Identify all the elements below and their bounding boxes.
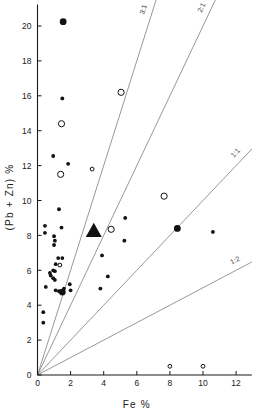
data-point-filled-circle — [41, 321, 45, 325]
y-axis-title: (Pb + Zn) % — [4, 164, 15, 231]
data-point-open-circle — [161, 193, 167, 199]
data-point-filled-circle — [56, 256, 60, 260]
reference-line-label-2-1: 2:1 — [196, 2, 207, 14]
data-point-filled-circle — [122, 239, 126, 243]
data-point-filled-circle — [43, 224, 47, 228]
x-tick-label: 10 — [198, 378, 208, 388]
reference-line-label-1-1: 1:1 — [229, 147, 241, 159]
data-points-group — [41, 18, 214, 368]
data-point-filled-circle — [54, 288, 58, 292]
data-point-open-circle — [201, 364, 205, 368]
x-axis-title: Fe % — [123, 399, 151, 410]
x-tick-label: 0 — [35, 378, 40, 388]
reference-line-group — [38, 0, 252, 375]
data-point-open-circle — [58, 121, 64, 127]
data-point-filled-circle — [53, 239, 57, 243]
data-point-open-circle — [168, 364, 172, 368]
reference-line-label-3-1: 3:1 — [138, 4, 148, 15]
plot-canvas: 024681012 02468101214161820 3:12:11:11:2… — [0, 0, 267, 415]
y-tick-label: 20 — [22, 21, 32, 31]
data-point-triangle — [86, 223, 102, 237]
data-point-filled-circle — [54, 262, 58, 266]
data-point-filled-circle — [174, 225, 181, 232]
x-tick-label: 6 — [134, 378, 139, 388]
data-point-filled-circle — [98, 287, 102, 291]
y-tick-label: 10 — [22, 196, 32, 206]
data-point-filled-circle — [59, 289, 66, 296]
data-point-filled-circle — [69, 288, 73, 292]
y-tick-label: 2 — [27, 335, 32, 345]
data-point-filled-circle — [52, 234, 56, 238]
data-point-filled-circle — [123, 216, 127, 220]
reference-line-1-1 — [38, 149, 252, 375]
data-point-filled-circle — [52, 243, 56, 247]
axes-group — [38, 5, 252, 375]
reference-line-3-1 — [38, 0, 157, 375]
reference-line-labels: 3:12:11:11:2 — [138, 2, 241, 266]
x-tick-label: 8 — [168, 378, 173, 388]
x-tick-label: 2 — [68, 378, 73, 388]
y-tick-label: 18 — [22, 56, 32, 66]
data-point-filled-circle — [211, 230, 215, 234]
data-point-filled-circle — [60, 18, 67, 25]
x-tick-label: 12 — [231, 378, 241, 388]
y-tick-label: 0 — [27, 370, 32, 380]
x-tick-label: 4 — [101, 378, 106, 388]
y-tick-label: 12 — [22, 161, 32, 171]
reference-line-2-1 — [38, 0, 216, 375]
data-point-filled-circle — [43, 231, 47, 235]
scatter-plot-figure: 024681012 02468101214161820 3:12:11:11:2… — [0, 0, 267, 415]
data-point-filled-circle — [66, 162, 70, 166]
data-point-filled-circle — [57, 207, 61, 211]
data-point-open-circle — [118, 89, 124, 95]
data-point-filled-circle — [106, 275, 110, 279]
x-tick-labels: 024681012 — [35, 378, 241, 388]
y-tick-label: 4 — [27, 300, 32, 310]
data-point-filled-circle — [60, 226, 64, 230]
reference-line-label-1-2: 1:2 — [229, 255, 241, 266]
data-point-filled-circle — [53, 269, 57, 273]
data-point-filled-circle — [60, 256, 64, 260]
data-point-filled-circle — [68, 282, 72, 286]
data-point-open-circle — [58, 171, 64, 177]
y-tick-label: 8 — [27, 231, 32, 241]
data-point-filled-circle — [51, 154, 55, 158]
y-tick-label: 6 — [27, 266, 32, 276]
y-tick-label: 16 — [22, 91, 32, 101]
data-point-open-circle — [90, 167, 94, 171]
data-point-filled-circle — [41, 310, 45, 314]
data-point-filled-circle — [60, 97, 64, 101]
reference-line-1-2 — [38, 262, 252, 375]
data-point-filled-circle — [100, 254, 104, 258]
data-point-open-circle — [58, 263, 62, 267]
data-point-filled-circle — [53, 278, 57, 282]
data-point-open-circle — [108, 226, 114, 232]
y-tick-labels: 02468101214161820 — [22, 21, 32, 380]
y-tick-label: 14 — [22, 126, 32, 136]
data-point-filled-circle — [44, 285, 48, 289]
